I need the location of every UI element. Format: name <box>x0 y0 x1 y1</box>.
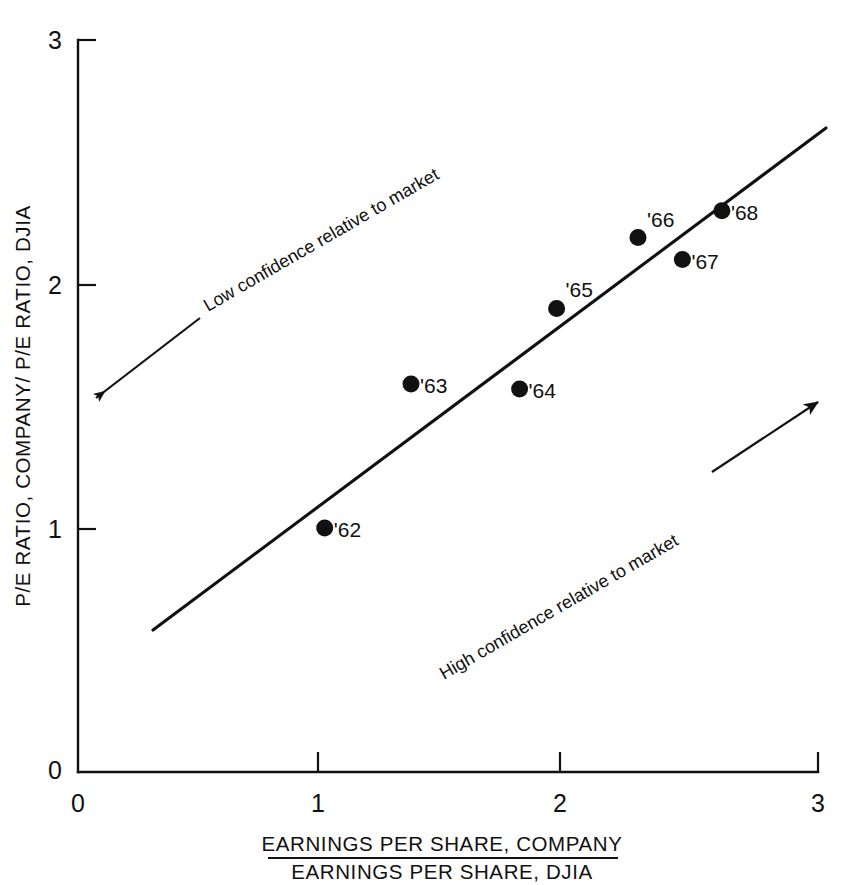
high-confidence-label: High confidence relative to market <box>436 530 682 683</box>
chart-canvas: 3 2 1 0 0 1 2 3 P/E RATIO, COMPANY/ P/E … <box>0 0 844 885</box>
y-tick-label-1: 1 <box>48 515 62 543</box>
x-axis-title-denominator: EARNINGS PER SHARE, DJIA <box>291 860 592 883</box>
data-point-marker <box>630 229 647 246</box>
data-point-marker <box>403 376 420 393</box>
data-point-label: '66 <box>647 208 674 231</box>
y-tick-label-3: 3 <box>48 26 62 54</box>
low-confidence-label: Low confidence relative to market <box>200 164 442 315</box>
data-point-67: '67 <box>674 250 719 273</box>
x-tick-label-2: 2 <box>553 789 567 817</box>
data-point-marker <box>674 251 691 268</box>
data-point-marker <box>316 520 333 537</box>
data-point-label: '64 <box>529 379 557 402</box>
y-axis-ticks <box>78 40 96 529</box>
data-point-66: '66 <box>630 208 675 247</box>
y-axis-tick-labels: 3 2 1 0 <box>48 26 62 784</box>
x-axis-tick-labels: 0 1 2 3 <box>71 789 825 817</box>
x-axis-ticks <box>318 752 818 772</box>
x-axis-title-numerator: EARNINGS PER SHARE, COMPANY <box>262 832 623 855</box>
y-tick-label-2: 2 <box>48 271 62 299</box>
x-tick-label-1: 1 <box>311 789 325 817</box>
x-tick-label-0: 0 <box>71 789 85 817</box>
data-point-label: '63 <box>420 374 447 397</box>
data-point-68: '68 <box>713 201 758 224</box>
data-point-label: '68 <box>731 201 758 224</box>
data-point-marker <box>511 380 528 397</box>
high-confidence-annotation: High confidence relative to market <box>436 402 818 683</box>
data-point-62: '62 <box>316 518 361 541</box>
high-confidence-arrow-icon <box>712 402 818 472</box>
data-point-label: '67 <box>691 250 718 273</box>
data-point-label: '62 <box>334 518 361 541</box>
data-point-label: '65 <box>566 278 593 301</box>
x-axis-title-fraction: EARNINGS PER SHARE, COMPANY EARNINGS PER… <box>262 832 623 883</box>
scatter-chart-figure: 3 2 1 0 0 1 2 3 P/E RATIO, COMPANY/ P/E … <box>0 0 844 885</box>
y-tick-label-0: 0 <box>48 756 62 784</box>
low-confidence-arrow-icon <box>96 318 200 398</box>
data-points-group: '62'63'64'65'66'67'68 <box>316 201 758 541</box>
data-point-63: '63 <box>403 374 448 397</box>
data-point-64: '64 <box>511 379 556 402</box>
x-tick-label-3: 3 <box>811 789 825 817</box>
data-point-65: '65 <box>548 278 593 317</box>
data-point-marker <box>548 300 565 317</box>
low-confidence-annotation: Low confidence relative to market <box>96 164 442 398</box>
y-axis-title: P/E RATIO, COMPANY/ P/E RATIO, DJIA <box>11 205 34 606</box>
data-point-marker <box>713 202 730 219</box>
